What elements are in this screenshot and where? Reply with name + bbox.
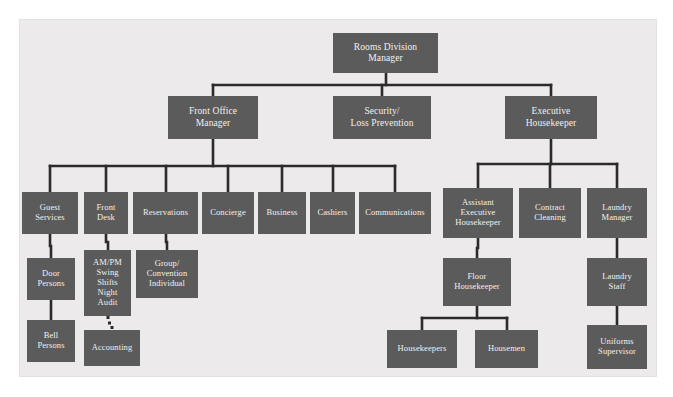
node-label: Accounting	[86, 343, 138, 353]
node-assistant-executive-housekeeper: Assistant Executive Housekeeper	[443, 188, 513, 238]
node-label: Guest Services	[24, 203, 76, 223]
node-label: Rooms Division Manager	[335, 42, 436, 64]
node-label: Communications	[361, 208, 429, 218]
node-label: Group/ Convention Individual	[138, 259, 196, 289]
node-guest-services: Guest Services	[22, 192, 78, 234]
node-laundry-staff: Laundry Staff	[587, 258, 647, 306]
node-label: Security/ Loss Prevention	[335, 106, 429, 128]
node-reservations: Reservations	[133, 192, 198, 234]
node-front-desk: Front Desk	[84, 192, 128, 234]
node-label: Business	[260, 208, 304, 218]
node-laundry-manager: Laundry Manager	[587, 188, 647, 238]
node-label: Front Desk	[86, 203, 126, 223]
node-label: Reservations	[135, 208, 196, 218]
node-business: Business	[258, 192, 306, 234]
node-cashiers: Cashiers	[310, 192, 355, 234]
node-label: Executive Housekeeper	[507, 106, 595, 128]
node-label: Concierge	[204, 208, 252, 218]
node-label: Laundry Staff	[589, 272, 645, 292]
node-rooms-division-manager: Rooms Division Manager	[333, 33, 438, 73]
node-label: Door Persons	[29, 269, 73, 289]
node-uniforms-supervisor: Uniforms Supervisor	[587, 325, 647, 369]
node-group-convention-individual: Group/ Convention Individual	[136, 250, 198, 298]
node-label: Contract Cleaning	[521, 203, 579, 223]
org-chart: Rooms Division ManagerFront Office Manag…	[0, 0, 673, 397]
node-am-pm-swing-shifts-night-audit: AM/PM Swing Shifts Night Audit	[84, 250, 131, 316]
node-door-persons: Door Persons	[27, 258, 75, 300]
node-label: Assistant Executive Housekeeper	[445, 198, 511, 228]
node-housekeepers: Housekeepers	[387, 330, 457, 368]
node-executive-housekeeper: Executive Housekeeper	[505, 96, 597, 139]
node-label: Front Office Manager	[170, 106, 256, 128]
node-label: AM/PM Swing Shifts Night Audit	[86, 258, 129, 307]
node-label: Housekeepers	[389, 344, 455, 354]
node-label: Cashiers	[312, 208, 353, 218]
node-concierge: Concierge	[202, 192, 254, 234]
node-communications: Communications	[359, 192, 431, 234]
node-contract-cleaning: Contract Cleaning	[519, 188, 581, 238]
node-front-office-manager: Front Office Manager	[168, 96, 258, 139]
node-label: Bell Persons	[29, 331, 73, 351]
node-label: Housemen	[477, 344, 536, 354]
node-security-loss-prevention: Security/ Loss Prevention	[333, 96, 431, 139]
node-bell-persons: Bell Persons	[27, 320, 75, 362]
node-housemen: Housemen	[475, 330, 538, 368]
node-label: Laundry Manager	[589, 203, 645, 223]
node-label: Uniforms Supervisor	[589, 337, 645, 357]
node-label: Floor Housekeeper	[445, 272, 509, 292]
node-floor-housekeeper: Floor Housekeeper	[443, 258, 511, 306]
node-accounting: Accounting	[84, 330, 140, 366]
